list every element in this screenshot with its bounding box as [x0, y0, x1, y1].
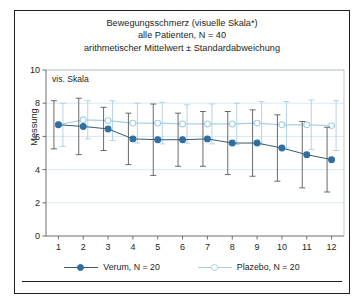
svg-text:12: 12 — [327, 242, 337, 252]
x-tick-labels: 123456789101112 — [56, 236, 337, 252]
svg-text:9: 9 — [255, 242, 260, 252]
svg-text:10: 10 — [30, 65, 40, 75]
plot-area: 0246810 123456789101112 vis. Skala Messu… — [0, 0, 364, 304]
svg-text:0: 0 — [35, 231, 40, 241]
svg-text:10: 10 — [277, 242, 287, 252]
svg-text:5: 5 — [155, 242, 160, 252]
svg-text:4: 4 — [130, 242, 135, 252]
legend-item-plazebo[interactable]: Plazebo, N = 20 — [198, 262, 300, 272]
svg-text:11: 11 — [302, 242, 311, 252]
svg-text:2: 2 — [35, 198, 40, 208]
svg-text:7: 7 — [205, 242, 210, 252]
legend-label-verum: Verum, N = 20 — [103, 262, 159, 272]
series-plazebo — [56, 100, 340, 151]
legend-item-verum[interactable]: Verum, N = 20 — [64, 262, 159, 272]
legend-marker-plazebo — [198, 263, 232, 272]
plot-annotation: vis. Skala — [52, 74, 89, 84]
series-verum — [51, 98, 335, 192]
svg-text:8: 8 — [230, 242, 235, 252]
y-axis-label: Messung — [29, 87, 39, 167]
legend-label-plazebo: Plazebo, N = 20 — [237, 262, 300, 272]
chart-legend: Verum, N = 20 Plazebo, N = 20 — [22, 262, 342, 272]
svg-text:6: 6 — [180, 242, 185, 252]
svg-text:3: 3 — [106, 242, 111, 252]
legend-divider — [22, 281, 342, 282]
legend-marker-verum — [64, 263, 98, 272]
svg-text:2: 2 — [81, 242, 86, 252]
svg-text:1: 1 — [56, 242, 61, 252]
figure-container: Bewegungsschmerz (visuelle Skala*) alle … — [0, 0, 364, 304]
chart-svg: 0246810 123456789101112 vis. Skala — [0, 0, 364, 304]
gridlines — [46, 70, 344, 203]
